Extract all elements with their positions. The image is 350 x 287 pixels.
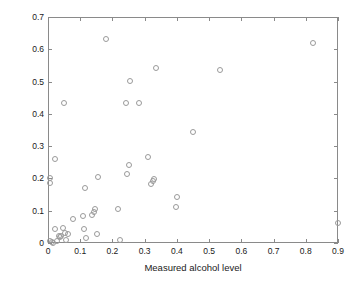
scatter-point xyxy=(335,220,341,226)
x-tick-label: 0.5 xyxy=(203,246,215,256)
x-axis-label: Measured alcohol level xyxy=(48,262,338,273)
scatter-point xyxy=(173,204,179,210)
x-axis-tick xyxy=(306,17,307,21)
scatter-point xyxy=(70,216,76,222)
scatter-plot-figure: 00.10.20.30.40.50.60.70.80.900.10.20.30.… xyxy=(0,0,350,287)
x-axis-tick xyxy=(177,17,178,21)
y-tick-label: 0 xyxy=(39,238,44,248)
x-axis-tick xyxy=(112,17,113,21)
scatter-point xyxy=(123,100,129,106)
y-axis-tick xyxy=(334,146,338,147)
scatter-point xyxy=(63,237,69,243)
y-axis-tick xyxy=(48,146,52,147)
scatter-point xyxy=(95,174,101,180)
scatter-point xyxy=(117,237,123,243)
y-tick-label: 0.6 xyxy=(32,44,44,54)
x-axis-tick xyxy=(80,17,81,21)
y-axis-tick xyxy=(334,211,338,212)
x-tick-label: 0.2 xyxy=(107,246,119,256)
x-axis-tick xyxy=(241,239,242,243)
scatter-point xyxy=(151,176,157,182)
y-axis-tick xyxy=(48,178,52,179)
x-axis-tick xyxy=(80,239,81,243)
x-tick-label: 0.7 xyxy=(268,246,280,256)
y-axis-tick xyxy=(48,49,52,50)
scatter-point xyxy=(103,36,109,42)
scatter-point xyxy=(65,231,71,237)
scatter-point xyxy=(174,194,180,200)
scatter-point xyxy=(61,100,67,106)
y-tick-label: 0.7 xyxy=(32,12,44,22)
scatter-point xyxy=(52,226,58,232)
y-tick-label: 0.3 xyxy=(32,141,44,151)
x-tick-label: 0 xyxy=(46,246,51,256)
scatter-point xyxy=(83,235,89,241)
y-axis-tick xyxy=(334,49,338,50)
y-axis-tick xyxy=(334,114,338,115)
scatter-points-layer xyxy=(49,18,337,242)
scatter-point xyxy=(115,206,121,212)
x-axis-tick xyxy=(145,17,146,21)
scatter-point xyxy=(310,40,316,46)
y-axis-tick xyxy=(48,82,52,83)
scatter-point xyxy=(92,206,98,212)
y-tick-label: 0.4 xyxy=(32,109,44,119)
x-axis-tick xyxy=(338,17,339,21)
y-tick-label: 0.1 xyxy=(32,206,44,216)
x-axis-tick xyxy=(209,17,210,21)
scatter-point xyxy=(47,180,53,186)
x-tick-label: 0.6 xyxy=(235,246,247,256)
y-axis-tick xyxy=(334,82,338,83)
plot-axes-box xyxy=(48,17,338,243)
x-tick-label: 0.8 xyxy=(300,246,312,256)
x-axis-tick xyxy=(274,239,275,243)
x-axis-tick xyxy=(112,239,113,243)
x-tick-label: 0.4 xyxy=(171,246,183,256)
scatter-point xyxy=(127,78,133,84)
scatter-point xyxy=(81,226,87,232)
scatter-point xyxy=(145,154,151,160)
x-axis-tick xyxy=(274,17,275,21)
scatter-point xyxy=(126,162,132,168)
scatter-point xyxy=(52,156,58,162)
x-axis-tick xyxy=(209,239,210,243)
x-tick-label: 0.1 xyxy=(74,246,86,256)
scatter-point xyxy=(82,185,88,191)
y-axis-tick xyxy=(334,17,338,18)
scatter-point xyxy=(217,67,223,73)
y-axis-tick xyxy=(48,114,52,115)
y-axis-tick xyxy=(48,211,52,212)
x-tick-label: 0.9 xyxy=(332,246,344,256)
scatter-point xyxy=(153,65,159,71)
y-axis-tick xyxy=(334,243,338,244)
y-tick-label: 0.5 xyxy=(32,77,44,87)
y-tick-label: 0.2 xyxy=(32,173,44,183)
x-axis-tick xyxy=(306,239,307,243)
scatter-point xyxy=(124,171,130,177)
y-axis-tick xyxy=(48,243,52,244)
y-axis-tick xyxy=(334,178,338,179)
x-axis-tick xyxy=(177,239,178,243)
x-axis-tick xyxy=(338,239,339,243)
scatter-point xyxy=(136,100,142,106)
x-axis-tick xyxy=(241,17,242,21)
x-tick-label: 0.3 xyxy=(139,246,151,256)
y-axis-tick xyxy=(48,17,52,18)
scatter-point xyxy=(190,129,196,135)
scatter-point xyxy=(94,231,100,237)
scatter-point xyxy=(80,213,86,219)
x-axis-tick xyxy=(145,239,146,243)
